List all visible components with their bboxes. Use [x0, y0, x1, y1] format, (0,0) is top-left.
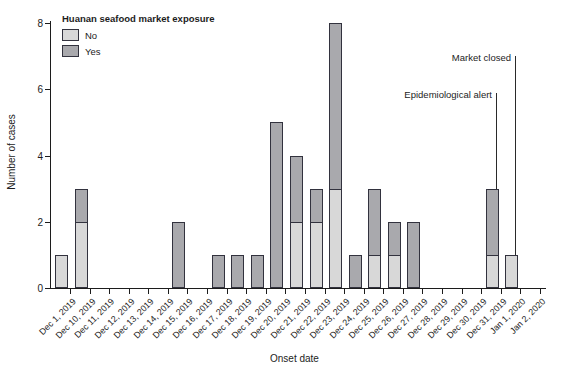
x-tick: [305, 289, 306, 294]
bar-segment-yes: [75, 189, 88, 223]
x-tick: [383, 289, 384, 294]
bar-segment-yes: [486, 189, 499, 256]
bar-segment-no: [310, 222, 323, 288]
legend-item-label: No: [85, 30, 97, 41]
x-tick: [422, 289, 423, 294]
x-axis-title: Onset date: [270, 353, 319, 364]
bar-segment-no: [505, 255, 518, 288]
y-tick: [45, 222, 50, 223]
x-tick: [442, 289, 443, 294]
x-tick: [540, 289, 541, 294]
x-tick: [227, 289, 228, 294]
legend: Huanan seafood market exposure NoYes: [62, 13, 215, 61]
annotation-label: Market closed: [452, 52, 511, 63]
x-tick: [207, 289, 208, 294]
y-tick: [45, 23, 50, 24]
y-tick-label: 4: [23, 152, 43, 162]
annotation-line: [515, 56, 516, 255]
legend-item: No: [62, 29, 215, 41]
bar-segment-yes: [231, 255, 244, 288]
y-tick-label: 0: [23, 284, 43, 294]
bar-segment-no: [329, 189, 342, 288]
y-tick-label: 2: [23, 218, 43, 228]
bar-segment-yes: [310, 189, 323, 223]
bar-segment-yes: [368, 189, 381, 256]
y-tick: [45, 156, 50, 157]
legend-swatch: [62, 29, 79, 41]
x-tick: [501, 289, 502, 294]
x-tick: [70, 289, 71, 294]
x-tick: [266, 289, 267, 294]
x-tick: [148, 289, 149, 294]
bar-segment-no: [290, 222, 303, 288]
x-tick: [90, 289, 91, 294]
y-tick: [45, 288, 50, 289]
x-tick: [403, 289, 404, 294]
bar-segment-yes: [388, 222, 401, 256]
legend-item: Yes: [62, 45, 215, 57]
bar-segment-no: [486, 255, 499, 288]
x-tick: [481, 289, 482, 294]
y-tick: [45, 89, 50, 90]
legend-title: Huanan seafood market exposure: [62, 13, 215, 24]
bar-segment-no: [368, 255, 381, 288]
x-axis-line: [50, 288, 546, 289]
x-tick: [364, 289, 365, 294]
annotation-label: Epidemiological alert: [404, 89, 492, 100]
bar-segment-yes: [329, 23, 342, 190]
x-tick: [109, 289, 110, 294]
bar-segment-yes: [407, 222, 420, 288]
y-tick-label: 6: [23, 85, 43, 95]
x-tick: [246, 289, 247, 294]
legend-swatch: [62, 45, 79, 57]
bar-segment-yes: [212, 255, 225, 288]
x-tick: [325, 289, 326, 294]
annotation-line: [496, 93, 497, 189]
legend-item-label: Yes: [85, 46, 101, 57]
x-tick: [187, 289, 188, 294]
bar-segment-no: [388, 255, 401, 288]
x-tick: [168, 289, 169, 294]
x-tick: [129, 289, 130, 294]
y-axis-title: Number of cases: [6, 114, 17, 190]
x-tick: [285, 289, 286, 294]
y-tick-label: 8: [23, 19, 43, 29]
bar-segment-yes: [290, 156, 303, 223]
x-tick: [520, 289, 521, 294]
bar-segment-yes: [270, 122, 283, 288]
x-tick: [462, 289, 463, 294]
bar-segment-yes: [251, 255, 264, 288]
bar-segment-no: [75, 222, 88, 288]
y-axis-line: [50, 21, 51, 289]
x-tick: [344, 289, 345, 294]
bar-segment-no: [55, 255, 68, 288]
figure-root: Number of cases Onset date 02468 Dec 1, …: [0, 0, 562, 381]
bar-segment-yes: [349, 255, 362, 288]
bar-segment-yes: [172, 222, 185, 288]
